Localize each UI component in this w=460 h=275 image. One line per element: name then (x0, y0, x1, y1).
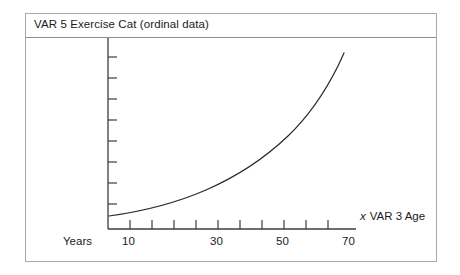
x-tick-label-50: 50 (276, 235, 289, 247)
chart-figure-frame: VAR 5 Exercise Cat (ordinal data) (25, 13, 437, 262)
x-axis-ticks (130, 220, 328, 229)
x-axis-title-text: VAR 3 Age (370, 210, 425, 222)
chart-header-band: VAR 5 Exercise Cat (ordinal data) (26, 14, 436, 38)
x-axis-units-label: Years (63, 235, 92, 247)
x-tick-label-30: 30 (210, 235, 223, 247)
plot-canvas (26, 38, 436, 261)
x-tick-label-10: 10 (122, 235, 135, 247)
x-axis-title: xVAR 3 Age (360, 210, 425, 222)
data-curve-exercise-vs-age (109, 53, 344, 216)
chart-title: VAR 5 Exercise Cat (ordinal data) (34, 18, 209, 30)
x-axis-variable-symbol: x (360, 210, 370, 222)
x-tick-label-70: 70 (342, 235, 355, 247)
y-axis-ticks (108, 57, 117, 204)
